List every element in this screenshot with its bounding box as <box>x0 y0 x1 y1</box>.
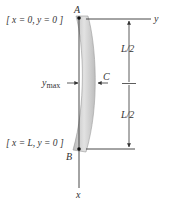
y-axis-label: y <box>153 13 159 24</box>
point-c-label: C <box>103 71 110 82</box>
deflected-beam <box>73 16 95 152</box>
x-axis-label: x <box>75 189 81 200</box>
ymax-label-sub: max <box>46 81 60 90</box>
point-b-label: B <box>66 151 72 162</box>
point-a-label: A <box>73 4 81 15</box>
deflection-diagram: A B C y x L/2 L/2 ymax [ x = 0, y = 0 ] … <box>0 0 169 202</box>
point-a-dot <box>77 16 81 20</box>
boundary-condition-bottom: [ x = L, y = 0 ] <box>6 138 64 148</box>
boundary-condition-top: [ x = 0, y = 0 ] <box>6 15 63 25</box>
ymax-label: ymax <box>41 77 60 90</box>
point-b-dot <box>77 147 81 151</box>
half-length-bottom-label: L/2 <box>120 109 134 120</box>
half-length-top-label: L/2 <box>120 43 134 54</box>
